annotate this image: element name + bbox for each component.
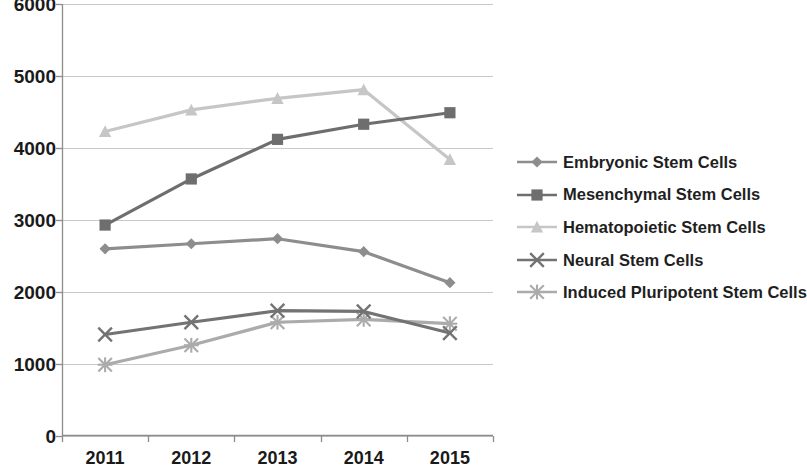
data-point-marker	[272, 134, 283, 145]
legend-item-hematopoietic-stem-cells[interactable]: Hematopoietic Stem Cells	[516, 215, 766, 239]
x-axis-tick-label: 2011	[86, 449, 125, 467]
data-point-marker	[100, 243, 111, 254]
x-axis-tick-label: 2015	[430, 449, 470, 467]
data-point-marker	[184, 338, 199, 353]
y-axis-tick-label: 6000	[2, 0, 56, 14]
legend-item-label: Neural Stem Cells	[563, 252, 703, 269]
data-point-marker	[358, 246, 369, 257]
gridlines	[62, 5, 493, 437]
legend-marker-x-icon	[516, 250, 558, 270]
legend-marker-square-icon	[516, 185, 558, 205]
data-point-marker	[531, 189, 542, 200]
data-series-layer	[98, 83, 458, 372]
legend-item-label: Hematopoietic Stem Cells	[563, 219, 766, 236]
data-point-marker	[186, 173, 197, 184]
x-axis-labels: 20112012201320142015	[0, 441, 520, 471]
legend-marker-star-icon	[516, 282, 558, 302]
legend-item-label: Induced Pluripotent Stem Cells	[563, 284, 807, 301]
legend-item-neural-stem-cells[interactable]: Neural Stem Cells	[516, 248, 703, 272]
data-point-marker	[530, 285, 545, 300]
legend-item-mesenchymal-stem-cells[interactable]: Mesenchymal Stem Cells	[516, 183, 760, 207]
y-axis-ticks	[56, 5, 62, 437]
series-embryonic-stem-cells	[100, 233, 456, 288]
y-axis-tick-label: 4000	[2, 139, 56, 158]
data-point-marker	[444, 277, 455, 288]
y-axis-tick-label: 3000	[2, 211, 56, 230]
y-axis-tick-label: 1000	[2, 355, 56, 374]
legend-marker-triangle-icon	[516, 217, 558, 237]
series-line	[105, 113, 450, 225]
y-axis-labels: 0100020003000400050006000	[0, 0, 56, 472]
y-axis-tick-label: 5000	[2, 67, 56, 86]
legend-item-label: Mesenchymal Stem Cells	[563, 186, 760, 203]
series-hematopoietic-stem-cells	[99, 83, 456, 165]
data-point-marker	[98, 357, 113, 372]
legend-item-induced-pluripotent-stem-cells[interactable]: Induced Pluripotent Stem Cells	[516, 280, 807, 304]
legend-marker-diamond-icon	[516, 152, 558, 172]
x-axis-tick-label: 2013	[257, 449, 297, 467]
series-mesenchymal-stem-cells	[100, 107, 456, 231]
y-axis-tick-label: 2000	[2, 283, 56, 302]
data-point-marker	[100, 219, 111, 230]
data-point-marker	[186, 238, 197, 249]
data-point-marker	[531, 156, 542, 167]
data-point-marker	[272, 233, 283, 244]
data-point-marker	[444, 107, 455, 118]
legend-item-label: Embryonic Stem Cells	[563, 154, 737, 171]
data-point-marker	[358, 119, 369, 130]
series-line	[105, 239, 450, 283]
axis-lines	[56, 4, 494, 442]
x-axis-tick-label: 2014	[344, 449, 384, 467]
legend-item-embryonic-stem-cells[interactable]: Embryonic Stem Cells	[516, 150, 737, 174]
x-axis-tick-label: 2012	[171, 449, 211, 467]
